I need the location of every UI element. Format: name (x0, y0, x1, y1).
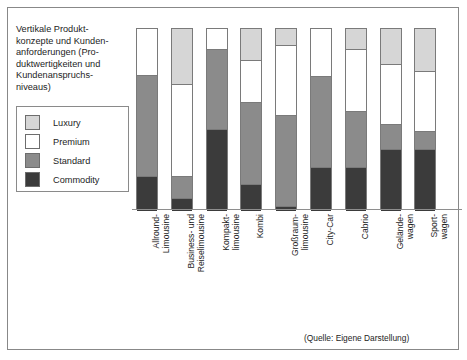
source-note: (Quelle: Eigene Darstellung) (304, 333, 409, 343)
bar-segment-standard (276, 115, 296, 206)
bar-segment-premium (172, 84, 192, 177)
bar-segment-standard (207, 49, 227, 129)
x-axis-label-5: Großraum- limousine (291, 214, 311, 324)
bar-segment-premium (346, 49, 366, 111)
legend-swatch-icon (25, 172, 40, 187)
bar-segment-commodity (381, 149, 401, 211)
chart-legend: LuxuryPremiumStandardCommodity (16, 106, 129, 192)
bar-segment-commodity (137, 176, 157, 211)
bar-4 (240, 28, 262, 210)
x-axis-label-7: Cabrio (361, 214, 371, 324)
bar-segment-commodity (207, 129, 227, 211)
bar-segment-premium (311, 29, 331, 76)
bar-segment-luxury (172, 29, 192, 84)
bar-segment-luxury (415, 29, 435, 71)
bar-1 (136, 28, 158, 210)
legend-item-label: Luxury (53, 118, 81, 128)
bar-segment-luxury (346, 29, 366, 49)
bar-3 (206, 28, 228, 210)
bar-segment-standard (381, 124, 401, 149)
bar-segment-luxury (276, 29, 296, 45)
bar-6 (310, 28, 332, 210)
x-axis-label-9: Sport- wagen (430, 214, 450, 324)
legend-item-luxury: Luxury (25, 115, 81, 130)
bar-segment-commodity (415, 149, 435, 211)
bar-8 (380, 28, 402, 210)
chart-baseline (132, 209, 462, 210)
bar-segment-standard (311, 76, 331, 167)
bar-segment-luxury (381, 29, 401, 64)
legend-swatch-icon (25, 153, 40, 168)
chart-x-axis-labels: Allround- LimousineBusiness- und Reiseli… (136, 214, 466, 324)
legend-swatch-icon (25, 115, 40, 130)
x-axis-label-3: Kompakt- limousine (222, 214, 242, 324)
legend-item-label: Standard (53, 156, 90, 166)
bar-segment-commodity (311, 167, 331, 211)
bar-segment-premium (415, 71, 435, 131)
x-axis-label-4: Kombi (256, 214, 266, 324)
bar-segment-premium (276, 45, 296, 114)
x-axis-label-6: City-Car (326, 214, 336, 324)
bar-segment-luxury (241, 29, 261, 60)
chart-plot-area (136, 28, 456, 210)
bar-segment-standard (241, 102, 261, 184)
bar-segment-premium (137, 29, 157, 75)
legend-swatch-icon (25, 134, 40, 149)
legend-item-label: Commodity (53, 175, 99, 185)
bar-segment-premium (381, 64, 401, 124)
x-axis-label-2: Business- und Reiselimousine (187, 214, 207, 324)
bar-2 (171, 28, 193, 210)
bar-5 (275, 28, 297, 210)
bar-7 (345, 28, 367, 210)
legend-item-commodity: Commodity (25, 172, 99, 187)
legend-item-premium: Premium (25, 134, 90, 149)
bar-segment-premium (207, 29, 227, 49)
bar-9 (414, 28, 436, 210)
x-axis-label-8: Gelände- wagen (396, 214, 416, 324)
bar-segment-standard (415, 131, 435, 149)
bar-segment-commodity (346, 167, 366, 211)
bar-segment-commodity (241, 184, 261, 211)
bar-segment-standard (172, 176, 192, 198)
figure-frame: Vertikale Produkt- konzepte und Kunden- … (7, 7, 459, 350)
legend-item-label: Premium (53, 137, 90, 147)
figure-title: Vertikale Produkt- konzepte und Kunden- … (16, 24, 138, 94)
bar-segment-standard (346, 111, 366, 167)
legend-item-standard: Standard (25, 153, 90, 168)
x-axis-label-1: Allround- Limousine (152, 214, 172, 324)
bar-segment-standard (137, 75, 157, 177)
bar-segment-premium (241, 60, 261, 102)
